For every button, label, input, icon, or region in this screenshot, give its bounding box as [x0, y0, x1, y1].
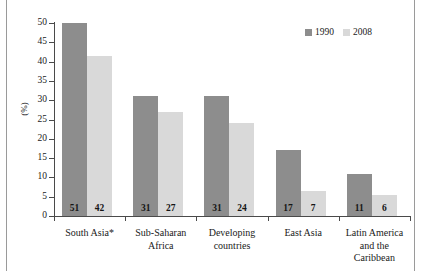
bar-1990-1: 31	[133, 96, 158, 216]
bar-value-label: 31	[133, 203, 158, 213]
legend-item-1990: 1990	[305, 27, 334, 37]
bar-value-label: 42	[87, 203, 112, 213]
x-tick-mark	[196, 216, 197, 221]
plot-area: 513131171142272476	[54, 23, 410, 216]
bar-value-label: 51	[62, 203, 87, 213]
bar-2008-0: 42	[87, 56, 112, 216]
bar-2008-3: 7	[301, 191, 326, 216]
x-tick-mark	[268, 216, 269, 221]
y-tick-label: 25	[0, 115, 47, 125]
bar-value-label: 7	[301, 203, 326, 213]
y-tick-label: 40	[0, 57, 47, 67]
chart-figure: (%) 50454035302520151050 513131171142272…	[0, 0, 422, 271]
bar-1990-2: 31	[204, 96, 229, 216]
bar-value-label: 6	[372, 203, 397, 213]
x-tick-mark	[339, 216, 340, 221]
y-tick-label: 50	[0, 18, 47, 28]
y-tick-label: 45	[0, 37, 47, 47]
legend-swatch-1990	[305, 29, 312, 36]
legend-label: 1990	[315, 27, 334, 37]
y-axis-tick-labels: 50454035302520151050	[0, 0, 47, 271]
y-tick-label: 10	[0, 172, 47, 182]
y-tick-label: 0	[0, 211, 47, 221]
bar-2008-1: 27	[158, 112, 183, 216]
x-tick-mark	[125, 216, 126, 221]
bar-value-label: 31	[204, 203, 229, 213]
bar-2008-4: 6	[372, 195, 397, 216]
bar-value-label: 27	[158, 203, 183, 213]
y-tick-label: 35	[0, 76, 47, 86]
legend-label: 2008	[353, 27, 372, 37]
x-axis-line	[54, 216, 411, 217]
bar-1990-3: 17	[276, 150, 301, 216]
bar-2008-2: 24	[229, 123, 254, 216]
bar-value-label: 11	[347, 203, 372, 213]
y-tick-label: 20	[0, 134, 47, 144]
bar-1990-0: 51	[62, 23, 87, 216]
legend-swatch-2008	[343, 29, 350, 36]
y-tick-label: 30	[0, 95, 47, 105]
chart-legend: 19902008	[305, 27, 372, 37]
bar-1990-4: 11	[347, 174, 372, 216]
y-tick-label: 15	[0, 153, 47, 163]
y-tick-label: 5	[0, 192, 47, 202]
legend-item-2008: 2008	[343, 27, 372, 37]
x-tick-mark	[54, 216, 55, 221]
x-tick-mark	[410, 216, 411, 221]
bar-value-label: 17	[276, 203, 301, 213]
category-label-4: Latin Americaand theCaribbean	[329, 227, 419, 265]
bar-value-label: 24	[229, 203, 254, 213]
